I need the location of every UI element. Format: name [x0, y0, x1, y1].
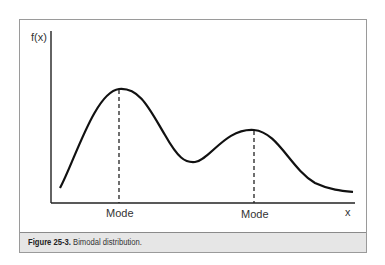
- distribution-curve: [60, 89, 353, 192]
- mode-label-2: Mode: [241, 208, 269, 220]
- mode-label-1: Mode: [106, 207, 134, 219]
- bimodal-chart: [0, 0, 385, 265]
- y-axis-label: f(x): [31, 31, 47, 43]
- x-axis-label: x: [345, 206, 351, 218]
